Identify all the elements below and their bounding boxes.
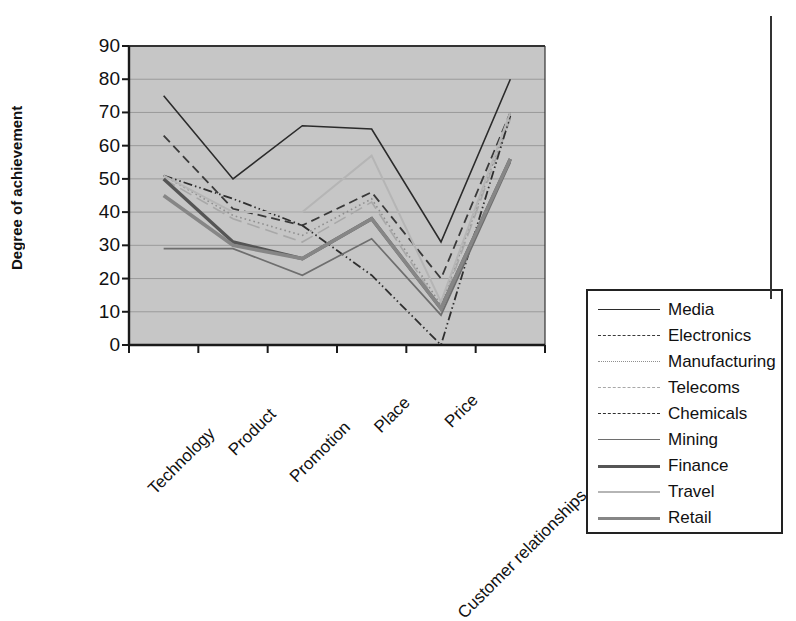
legend-item-mining[interactable]: Mining (588, 426, 781, 452)
legend-line-swatch (598, 329, 660, 341)
legend-line-swatch (598, 433, 660, 445)
legend-label: Electronics (668, 327, 751, 344)
legend-line-swatch (598, 355, 660, 367)
legend-item-media[interactable]: Media (588, 296, 781, 322)
legend-item-retail[interactable]: Retail (588, 504, 781, 530)
legend-line-swatch (598, 459, 660, 471)
legend-line-swatch (598, 485, 660, 497)
legend-label: Mining (668, 431, 718, 448)
legend-item-manufacturing[interactable]: Manufacturing (588, 348, 781, 374)
legend-label: Travel (668, 483, 715, 500)
legend-line-swatch (598, 511, 660, 523)
legend-label: Telecoms (668, 379, 740, 396)
legend-label: Finance (668, 457, 728, 474)
legend-item-travel[interactable]: Travel (588, 478, 781, 504)
chart-legend: MediaElectronicsManufacturingTelecomsChe… (586, 289, 783, 534)
legend-item-chemicals[interactable]: Chemicals (588, 400, 781, 426)
legend-label: Retail (668, 509, 711, 526)
legend-label: Manufacturing (668, 353, 776, 370)
legend-item-telecoms[interactable]: Telecoms (588, 374, 781, 400)
legend-line-swatch (598, 381, 660, 393)
legend-item-finance[interactable]: Finance (588, 452, 781, 478)
legend-line-swatch (598, 303, 660, 315)
page-divider (770, 16, 772, 299)
legend-line-swatch (598, 407, 660, 419)
legend-label: Chemicals (668, 405, 747, 422)
legend-item-electronics[interactable]: Electronics (588, 322, 781, 348)
legend-label: Media (668, 301, 714, 318)
